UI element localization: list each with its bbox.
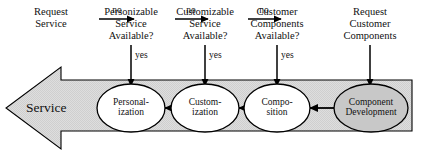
text-line: ization bbox=[97, 107, 165, 117]
text-line: Request bbox=[22, 6, 80, 18]
node-request-customer-components: Request Customer Components bbox=[326, 6, 414, 41]
text-line: Service bbox=[22, 18, 80, 30]
text-line: Custom- bbox=[171, 97, 239, 107]
edge-label-no-1: no bbox=[106, 5, 128, 16]
text-line: Development bbox=[333, 107, 409, 117]
text-line: Personal- bbox=[97, 97, 165, 107]
flowchart-diagram: Request Service Personizable Service Ava… bbox=[0, 0, 432, 158]
edge-label-yes-3: yes bbox=[281, 50, 303, 61]
label-service-output: Service bbox=[26, 100, 66, 116]
text-line: sition bbox=[244, 107, 310, 117]
edge-label-no-2: no bbox=[180, 5, 202, 16]
label-personalization: Personal- ization bbox=[97, 97, 165, 118]
text-line: Request bbox=[326, 6, 414, 18]
text-line: Components bbox=[326, 30, 414, 42]
label-composition: Compo- sition bbox=[244, 97, 310, 118]
node-request-service: Request Service bbox=[22, 6, 80, 30]
text-line: Customer bbox=[233, 6, 321, 18]
text-line: ization bbox=[171, 107, 239, 117]
node-customer-components-available: Customer Components Available? bbox=[233, 6, 321, 41]
label-component-development: Component Development bbox=[333, 97, 409, 118]
edge-label-yes-2: yes bbox=[209, 50, 231, 61]
text-line: Compo- bbox=[244, 97, 310, 107]
label-customization: Custom- ization bbox=[171, 97, 239, 118]
edge-label-no-3: no bbox=[253, 5, 275, 16]
text-line: Available? bbox=[233, 30, 321, 42]
text-line: Components bbox=[233, 18, 321, 30]
edge-label-yes-1: yes bbox=[135, 50, 157, 61]
text-line: Component bbox=[333, 97, 409, 107]
text-line: Customer bbox=[326, 18, 414, 30]
